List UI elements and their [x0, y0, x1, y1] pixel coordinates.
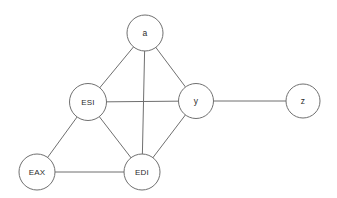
graph-node-ESI[interactable]: ESI	[70, 84, 107, 121]
node-label-EAX: EAX	[29, 168, 46, 177]
graph-edge-a-EDI	[142, 51, 144, 154]
node-label-EDI: EDI	[135, 168, 149, 177]
graph-node-EAX[interactable]: EAX	[19, 154, 55, 190]
graph-node-a[interactable]: a	[127, 15, 163, 51]
graph-edge-EDI-y	[153, 115, 186, 158]
nodes-layer: aESIyzEAXEDI	[19, 15, 320, 190]
graph-edge-ESI-y	[107, 101, 179, 102]
graph-edge-ESI-EAX	[48, 117, 78, 158]
node-label-z: z	[301, 96, 305, 106]
node-label-ESI: ESI	[81, 98, 95, 107]
graph-edge-ESI-EDI	[99, 117, 131, 158]
graph-edge-a-y	[156, 47, 186, 87]
node-label-y: y	[194, 96, 199, 106]
graph-node-z[interactable]: z	[286, 84, 320, 118]
graph-svg: aESIyzEAXEDI	[0, 0, 337, 198]
node-label-a: a	[143, 28, 148, 38]
graph-canvas: aESIyzEAXEDI	[0, 0, 337, 198]
graph-edge-a-ESI	[100, 47, 134, 88]
graph-node-EDI[interactable]: EDI	[124, 154, 160, 190]
graph-node-y[interactable]: y	[179, 84, 214, 119]
